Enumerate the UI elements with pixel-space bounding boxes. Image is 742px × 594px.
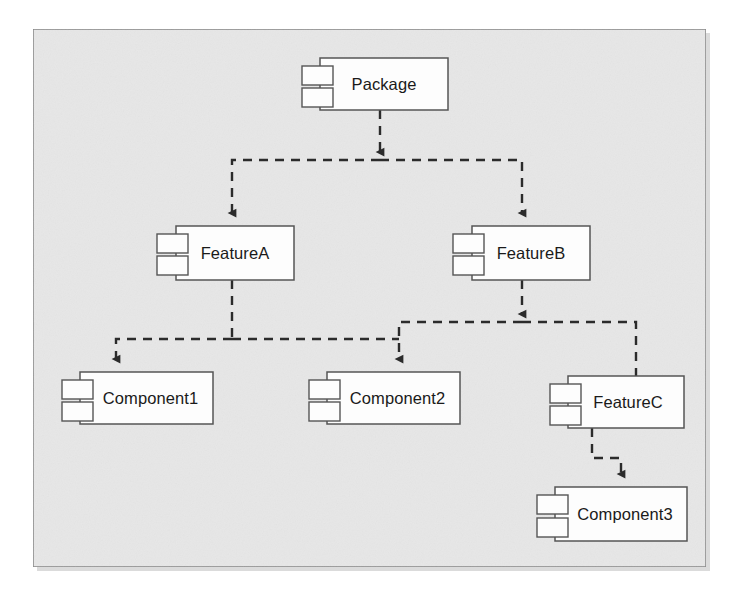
node-featureB[interactable] — [453, 226, 590, 280]
diagram-canvas: Package FeatureA FeatureB Component1 Com… — [0, 0, 742, 594]
node-component2[interactable] — [309, 372, 460, 424]
node-component1[interactable] — [62, 372, 213, 424]
node-featureA[interactable] — [157, 226, 294, 280]
node-package[interactable] — [302, 58, 448, 110]
node-component3[interactable] — [537, 487, 687, 541]
node-featureC[interactable] — [550, 376, 684, 428]
uml-component-diagram — [0, 0, 742, 594]
